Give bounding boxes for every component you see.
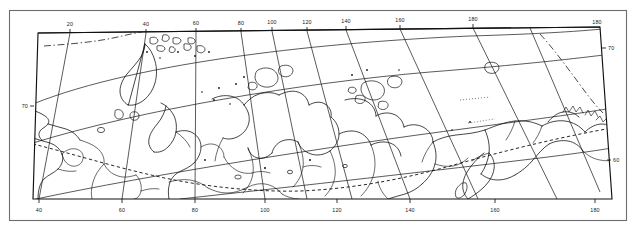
left-axis-labels: 70	[22, 103, 28, 109]
top-tick-label: 140	[341, 18, 350, 24]
bottom-tick-label: 180	[590, 207, 599, 213]
right-tick-label: 180	[592, 19, 601, 25]
right-tick-label: 60	[613, 157, 619, 163]
top-tick-label: 120	[302, 19, 311, 25]
right-tick-label: 70	[608, 45, 614, 51]
top-tick-label: 160	[395, 17, 404, 23]
top-tick-label: 60	[193, 20, 199, 26]
top-tick-label: 180	[468, 16, 477, 22]
left-tick-label: 70	[22, 103, 28, 109]
top-tick-label: 100	[267, 19, 276, 25]
bottom-tick-label: 140	[405, 207, 414, 213]
bottom-tick-label: 80	[192, 207, 198, 213]
top-tick-label: 20	[67, 21, 73, 27]
bottom-tick-label: 100	[260, 207, 269, 213]
bottom-tick-label: 60	[119, 207, 125, 213]
bottom-tick-label: 40	[36, 207, 42, 213]
map-figure: 20 40 60 80 100 120 140 160 180 40 60 80…	[0, 0, 636, 240]
bottom-tick-label: 120	[332, 207, 341, 213]
bottom-tick-label: 160	[490, 207, 499, 213]
top-tick-label: 40	[143, 21, 149, 27]
top-tick-label: 80	[238, 20, 244, 26]
outer-frame	[10, 11, 627, 221]
